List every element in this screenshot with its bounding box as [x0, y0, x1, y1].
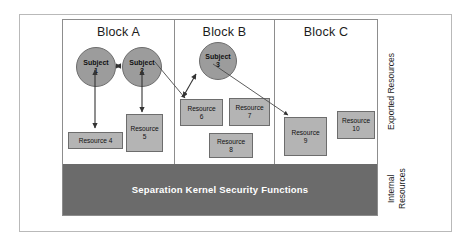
resource-4-label-line1: Resource 4: [79, 137, 113, 145]
resource-7-label-line2: 7: [248, 112, 252, 120]
system-container: Block A Subject 1 Subject 2 Resource 4 R…: [62, 19, 378, 216]
resource-5-label-line2: 5: [143, 133, 147, 141]
subject-3-label-line1: Subject: [205, 53, 230, 61]
subject-1-label-line1: Subject: [83, 59, 108, 67]
block-a-title: Block A: [63, 25, 174, 39]
resource-8-node[interactable]: Resource 8: [209, 133, 253, 158]
resource-10-label-line1: Resource: [342, 117, 370, 125]
resource-9-node[interactable]: Resource 9: [284, 117, 327, 156]
resource-10-node[interactable]: Resource 10: [337, 111, 375, 139]
separation-kernel-label: Separation Kernel Security Functions: [132, 184, 309, 195]
resource-8-label-line1: Resource: [217, 138, 245, 146]
block-b: Block B Subject 3 Resource 6 Resource 7 …: [174, 20, 275, 164]
block-c-title: Block C: [275, 25, 377, 39]
subject-2-node[interactable]: Subject 2: [122, 47, 162, 87]
block-a: Block A Subject 1 Subject 2 Resource 4 R…: [63, 20, 174, 164]
exported-resources-label: Exported Resources: [386, 22, 397, 160]
resource-7-label-line1: Resource: [235, 104, 263, 112]
resource-9-label-line1: Resource: [291, 129, 319, 137]
internal-resources-label: Internal Resources: [386, 165, 407, 213]
resource-6-label-line2: 6: [200, 113, 204, 121]
separation-kernel-bar: Separation Kernel Security Functions: [63, 164, 377, 215]
resource-7-node[interactable]: Resource 7: [229, 98, 270, 126]
block-b-title: Block B: [175, 25, 274, 39]
subject-3-label-line2: 3: [216, 61, 220, 69]
subject-3-node[interactable]: Subject 3: [199, 42, 237, 80]
subject-2-label-line2: 2: [140, 67, 144, 75]
block-c: Block C Resource 9 Resource 10: [275, 20, 377, 164]
resource-10-label-line2: 10: [352, 125, 359, 133]
subject-1-label-line2: 1: [94, 67, 98, 75]
resource-8-label-line2: 8: [229, 146, 233, 154]
resource-5-label-line1: Resource: [130, 125, 158, 133]
resource-5-node[interactable]: Resource 5: [126, 114, 163, 152]
subject-1-node[interactable]: Subject 1: [76, 47, 116, 87]
resource-9-label-line2: 9: [304, 137, 308, 145]
resource-6-node[interactable]: Resource 6: [180, 99, 223, 126]
resource-6-label-line1: Resource: [187, 105, 215, 113]
diagram-root: Block A Subject 1 Subject 2 Resource 4 R…: [0, 0, 471, 245]
blocks-row: Block A Subject 1 Subject 2 Resource 4 R…: [63, 20, 377, 164]
subject-2-label-line1: Subject: [129, 59, 154, 67]
resource-4-node[interactable]: Resource 4: [68, 132, 123, 149]
